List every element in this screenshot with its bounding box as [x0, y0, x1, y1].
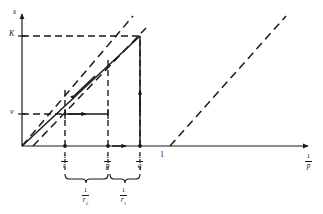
x-dot-one-over-p: [106, 144, 110, 148]
dashed-right-diagonal: [170, 16, 286, 146]
y-tick-label-K: K: [9, 30, 14, 38]
y-axis-label: s: [13, 8, 16, 16]
brace-label-r1-subscript: 1: [124, 201, 127, 206]
solid-diagonal-arrowhead: [75, 76, 95, 95]
figure-canvas: s K v 1 r 1 p 1 q 1 1 p 1 r2 1 r1: [0, 0, 323, 214]
x-dot-one-over-r: [63, 144, 67, 148]
x-tick-label-one-over-p: 1 p: [104, 153, 111, 170]
solid-diagonal-path: [22, 36, 140, 146]
x-tick-label-one-over-r: 1 r: [61, 153, 68, 170]
x-tick-label-one-over-q: 1 q: [136, 153, 143, 170]
brace-label-one-over-r1: 1 r1: [120, 187, 127, 206]
brace-label-r2-subscript: 2: [86, 201, 89, 206]
x-dot-one-over-q: [138, 144, 142, 148]
brace-right: [110, 174, 140, 183]
x-tick-label-one: 1: [160, 151, 164, 159]
x-axis-label: 1 p: [305, 153, 312, 170]
diagram-svg: [0, 0, 323, 214]
brace-left: [65, 174, 108, 183]
brace-label-one-over-r2: 1 r2: [82, 187, 89, 206]
y-tick-label-v: v: [10, 108, 14, 116]
